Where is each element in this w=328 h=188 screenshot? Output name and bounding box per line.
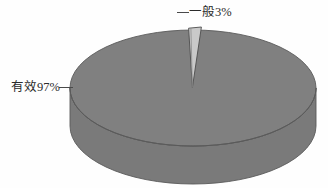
pie-chart-figure: 有效97% 一般3%: [0, 0, 328, 188]
pie-label-major: 有效97%: [11, 80, 60, 95]
pie-label-minor: 一般3%: [189, 5, 232, 20]
